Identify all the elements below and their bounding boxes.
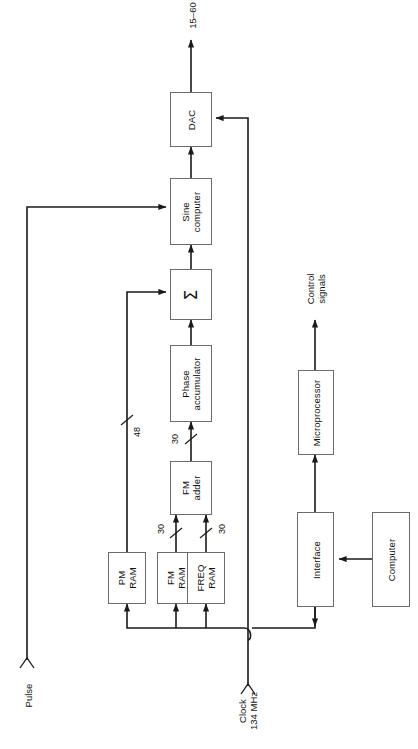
block-phase-accumulator[interactable]: Phase accumulator [170, 345, 212, 422]
block-diagram-canvas: DAC Sine computer Σ Phase accumulator FM… [0, 0, 418, 749]
wire-pmram-to-summer [127, 292, 166, 552]
label-clock-line1: Clock [237, 699, 248, 723]
fm-ram-line1: FM [165, 571, 176, 585]
block-phase-accumulator-label: Phase accumulator [181, 357, 202, 410]
block-fm-ram-label: FM RAM [166, 567, 187, 588]
block-sine-computer-label: Sine computer [181, 191, 202, 231]
sine-computer-line2: computer [190, 191, 201, 231]
block-freq-ram[interactable]: FREQ RAM [187, 552, 225, 604]
label-control-line1: Control [305, 274, 316, 305]
label-control-line2: signals [316, 274, 327, 304]
wire-clock-bus-left [127, 604, 244, 628]
fm-adder-line1: FM [180, 481, 191, 495]
block-pm-ram[interactable]: PM RAM [108, 552, 146, 604]
label-pulse: Pulse [23, 670, 34, 722]
sine-computer-line1: Sine [180, 202, 191, 221]
pm-ram-line2: RAM [126, 567, 137, 588]
block-computer-label: Computer [386, 538, 397, 581]
block-microprocessor-label: Microprocessor [311, 379, 322, 445]
block-computer[interactable]: Computer [372, 512, 410, 607]
fm-ram-line2: RAM [175, 567, 186, 588]
block-microprocessor[interactable]: Microprocessor [298, 370, 334, 455]
block-fm-adder-label: FM adder [181, 476, 202, 501]
block-summer[interactable]: Σ [170, 269, 212, 320]
label-output-range: 15–60 [187, 0, 198, 36]
block-dac-label: DAC [186, 109, 197, 129]
block-interface[interactable]: Interface [297, 512, 334, 607]
block-dac[interactable]: DAC [170, 92, 212, 147]
wire-interface-bus [252, 607, 315, 628]
phase-accumulator-line1: Phase [180, 370, 191, 397]
block-freq-ram-label: FREQ RAM [196, 565, 217, 592]
bus-label-30-freqram: 30 [217, 520, 227, 538]
bus-label-30-fmram: 30 [156, 520, 166, 538]
block-fm-adder[interactable]: FM adder [170, 461, 212, 515]
block-pm-ram-label: PM RAM [117, 567, 138, 588]
label-control-signals: Control signals [305, 258, 327, 320]
label-clock: Clock 134 MHz [237, 679, 259, 743]
freq-ram-line1: FREQ [195, 565, 206, 592]
bus-label-48: 48 [132, 423, 142, 441]
fm-adder-line2: adder [190, 476, 201, 501]
label-clock-line2: 134 MHz [248, 692, 259, 730]
block-sine-computer[interactable]: Sine computer [170, 178, 212, 245]
freq-ram-line2: RAM [205, 567, 216, 588]
block-summer-label: Σ [186, 289, 197, 300]
bus-label-30-phaseacc: 30 [170, 430, 180, 448]
pm-ram-line1: PM [116, 571, 127, 585]
phase-accumulator-line2: accumulator [190, 357, 201, 410]
block-interface-label: Interface [310, 541, 321, 579]
